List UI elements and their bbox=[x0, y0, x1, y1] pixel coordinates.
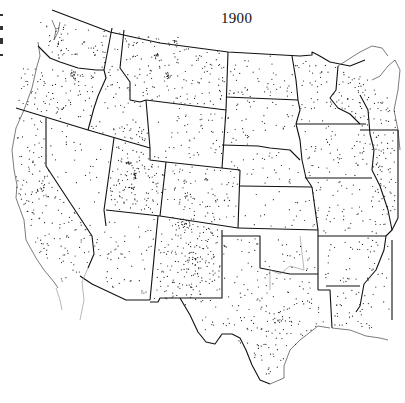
population-dot bbox=[205, 173, 206, 174]
population-dot bbox=[62, 131, 63, 132]
population-dot bbox=[118, 258, 119, 259]
population-dot bbox=[139, 127, 140, 128]
population-dot bbox=[63, 202, 64, 203]
population-dot bbox=[49, 183, 50, 184]
population-dot bbox=[119, 32, 120, 33]
population-dot bbox=[157, 183, 158, 184]
map-title-year: 1900 bbox=[221, 10, 252, 27]
population-dot bbox=[214, 280, 215, 281]
population-dot bbox=[337, 313, 338, 314]
population-dot bbox=[189, 285, 190, 286]
population-dot bbox=[52, 187, 53, 188]
population-dot bbox=[187, 227, 188, 228]
population-dot bbox=[280, 87, 281, 88]
population-dot bbox=[248, 60, 249, 61]
population-dot bbox=[168, 77, 169, 78]
population-dot bbox=[329, 171, 330, 172]
population-dot bbox=[340, 304, 341, 305]
population-dot bbox=[197, 273, 198, 274]
population-dot bbox=[207, 266, 208, 267]
population-dot bbox=[380, 186, 381, 187]
population-dot bbox=[138, 36, 139, 37]
population-dot bbox=[143, 129, 144, 130]
population-dot bbox=[59, 57, 60, 58]
population-dot bbox=[185, 71, 186, 72]
population-dot bbox=[146, 90, 147, 91]
population-dot bbox=[171, 75, 172, 76]
population-dot bbox=[257, 271, 258, 272]
population-dot bbox=[334, 218, 335, 219]
population-dot bbox=[273, 84, 274, 85]
population-dot bbox=[178, 222, 179, 223]
population-dot bbox=[226, 325, 227, 326]
population-dot bbox=[39, 171, 40, 172]
population-dot bbox=[276, 125, 277, 126]
population-dot bbox=[384, 286, 385, 287]
population-dot bbox=[166, 290, 167, 291]
population-dot bbox=[339, 92, 340, 93]
population-dot bbox=[363, 84, 364, 85]
population-dot bbox=[395, 120, 396, 121]
population-dot bbox=[275, 344, 276, 345]
population-dot bbox=[115, 248, 116, 249]
population-dot bbox=[195, 259, 196, 260]
population-dot bbox=[126, 199, 127, 200]
population-dot bbox=[227, 318, 228, 319]
population-dot bbox=[388, 111, 389, 112]
population-dot bbox=[344, 242, 345, 243]
population-dot bbox=[302, 85, 303, 86]
population-dot bbox=[175, 40, 176, 41]
population-dot bbox=[160, 286, 161, 287]
population-dot bbox=[57, 102, 58, 103]
population-dot bbox=[48, 196, 49, 197]
population-dot bbox=[126, 175, 127, 176]
population-dot bbox=[330, 221, 331, 222]
population-dot bbox=[29, 171, 30, 172]
population-dot bbox=[156, 54, 157, 55]
population-dot bbox=[167, 78, 168, 79]
population-dot bbox=[62, 71, 63, 72]
population-dot bbox=[26, 200, 27, 201]
population-dot bbox=[90, 225, 91, 226]
population-dot bbox=[193, 155, 194, 156]
population-dot bbox=[298, 67, 299, 68]
population-dot bbox=[358, 134, 359, 135]
population-dot bbox=[289, 321, 290, 322]
population-dot bbox=[91, 105, 92, 106]
population-dot bbox=[170, 269, 171, 270]
population-dot bbox=[41, 122, 42, 123]
population-dot bbox=[205, 206, 206, 207]
population-dot bbox=[197, 238, 198, 239]
population-dot bbox=[62, 54, 63, 55]
population-dot bbox=[214, 152, 215, 153]
population-dot bbox=[124, 137, 125, 138]
population-dot bbox=[287, 87, 288, 88]
population-dot bbox=[373, 118, 374, 119]
population-dot bbox=[390, 193, 391, 194]
population-dot bbox=[214, 113, 215, 114]
population-dot bbox=[191, 252, 192, 253]
population-dot bbox=[247, 328, 248, 329]
population-dot bbox=[58, 109, 59, 110]
population-dot bbox=[213, 216, 214, 217]
population-dot bbox=[382, 101, 383, 102]
population-dot bbox=[188, 199, 189, 200]
population-dot bbox=[264, 214, 265, 215]
population-dot bbox=[186, 93, 187, 94]
population-dot bbox=[309, 120, 310, 121]
population-dot bbox=[189, 172, 190, 173]
population-dot bbox=[196, 245, 197, 246]
population-dot bbox=[166, 157, 167, 158]
population-dot bbox=[208, 192, 209, 193]
population-dot bbox=[122, 254, 123, 255]
population-dot bbox=[57, 75, 58, 76]
population-dot bbox=[215, 201, 216, 202]
population-dot bbox=[66, 236, 67, 237]
population-dot bbox=[333, 195, 334, 196]
population-dot bbox=[219, 64, 220, 65]
population-dot bbox=[371, 327, 372, 328]
population-dot bbox=[258, 345, 259, 346]
population-dot bbox=[148, 198, 149, 199]
population-dot bbox=[71, 54, 72, 55]
population-dot bbox=[55, 196, 56, 197]
